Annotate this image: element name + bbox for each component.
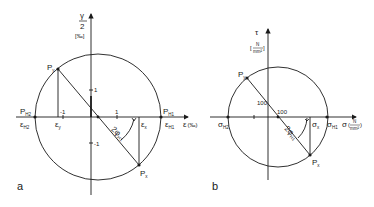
- panel-label-b-box: b: [212, 180, 218, 192]
- gamma-label-num: γ: [80, 11, 84, 20]
- diagram-b-stress-mohr-circle: [210, 29, 356, 180]
- sigma-unit-den: mm²: [350, 126, 359, 131]
- panel-label-a-box: a: [17, 180, 23, 192]
- tau-unit-bracket-r: ]: [263, 45, 265, 51]
- eps-h1-label: εH1: [165, 120, 175, 130]
- point-py-b: [245, 76, 248, 79]
- tick-label-x-neg: -1: [60, 109, 66, 115]
- px-label-a: Px: [140, 169, 148, 179]
- sigma-x-label: σx: [312, 120, 320, 130]
- point-px-b: [308, 153, 311, 156]
- point-px-a: [137, 163, 140, 166]
- epsilon-axis-label: ε(‰): [183, 120, 198, 129]
- angle-label-a: 2φH1: [109, 125, 128, 143]
- sigma-unit-bracket-r: ): [360, 122, 362, 128]
- angle-arc-b: [298, 118, 307, 138]
- py-label-a: Py: [47, 63, 55, 73]
- point-sh1-b: [325, 115, 328, 118]
- circle-center-a: [97, 116, 100, 119]
- sigma-h2-label: σH2: [218, 120, 229, 130]
- tick-label-y-neg: -1: [94, 141, 100, 147]
- eps-y-label: εy: [55, 120, 62, 130]
- point-sh2-b: [226, 115, 229, 118]
- point-py-a: [56, 67, 59, 70]
- ph1-label: PH1: [163, 107, 175, 117]
- eps-x-label: εx: [141, 120, 148, 130]
- tau-unit-bracket-l: [: [250, 45, 252, 51]
- tau-label: τ: [255, 28, 259, 37]
- point-ph2-a: [33, 115, 36, 118]
- tau-unit-den: mm²: [253, 49, 262, 54]
- gamma-unit: [‰]: [75, 33, 85, 39]
- tick-label-x-pos: 1: [115, 109, 119, 115]
- tick-label-tau: 100: [257, 100, 268, 106]
- gamma-label-den: 2: [80, 22, 85, 31]
- eps-h2-label: εH2: [20, 120, 30, 130]
- py-label-b: Py: [238, 70, 246, 80]
- ph2-label: PH2: [20, 107, 32, 117]
- circle-center-b: [277, 116, 280, 119]
- mohr-circle-figure: γ 2 [‰] Py Px PH1 PH2 εH2 εy εx εH1 ε(‰)…: [0, 0, 374, 207]
- sigma-h1-label: σH1: [327, 120, 338, 130]
- diagram-a-strain-mohr-circle: [16, 14, 188, 180]
- tick-label-y-pos: 1: [94, 87, 98, 93]
- tau-unit-num: N: [256, 42, 259, 47]
- tick-label-sigma: 100: [277, 109, 288, 115]
- px-label-b: Px: [312, 158, 320, 168]
- sigma-unit-num: N: [353, 119, 356, 124]
- sigma-axis-label: σ: [342, 120, 347, 129]
